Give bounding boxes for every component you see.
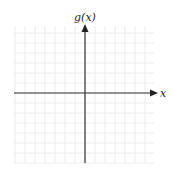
coordinate-plane: g(x) x: [0, 0, 172, 169]
y-axis-arrow-icon: [82, 24, 89, 32]
x-axis-label: x: [160, 87, 167, 100]
x-axis-arrow-icon: [150, 90, 158, 97]
y-axis-label: g(x): [74, 11, 96, 24]
grid-lines: [14, 26, 154, 163]
